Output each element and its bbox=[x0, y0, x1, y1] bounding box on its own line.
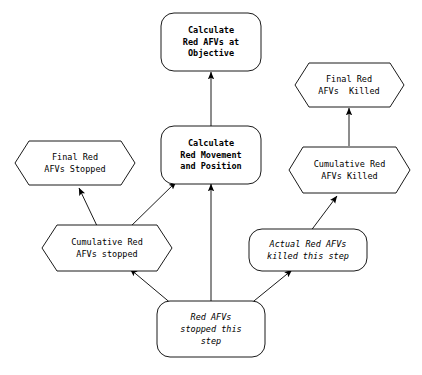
node-cumulative-red-afvs-stopped[interactable] bbox=[42, 225, 172, 271]
node-red-afvs-stopped-this-step[interactable] bbox=[157, 301, 265, 357]
node-actual-red-afvs-killed-this-step[interactable] bbox=[249, 229, 367, 271]
edge-actualkilled-to-cumkilled bbox=[310, 196, 337, 232]
edge-stoppedstep-to-actualkilled bbox=[249, 270, 292, 305]
edge-cumstopped-to-finalstopped bbox=[79, 188, 98, 228]
node-calc-red-movement-position[interactable] bbox=[161, 126, 261, 184]
edge-cumstopped-to-movement bbox=[128, 182, 176, 229]
node-final-red-afvs-killed[interactable] bbox=[295, 63, 404, 107]
edge-stoppedstep-to-cumstopped bbox=[130, 269, 173, 305]
node-calc-red-afvs-objective[interactable] bbox=[161, 13, 261, 71]
flowchart-canvas bbox=[0, 0, 422, 375]
node-final-red-afvs-stopped[interactable] bbox=[15, 141, 135, 185]
node-cumulative-red-afvs-killed[interactable] bbox=[289, 147, 410, 193]
